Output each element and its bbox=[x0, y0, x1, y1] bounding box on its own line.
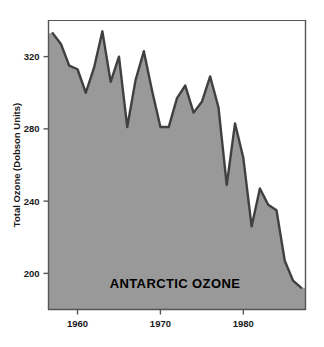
y-axis-title: Total Ozone (Dobson Units) bbox=[11, 103, 22, 227]
y-tick-label: 280 bbox=[24, 123, 40, 134]
x-tick-label: 1970 bbox=[150, 318, 171, 329]
ozone-chart-figure: 200240280320 196019701980 Total Ozone (D… bbox=[0, 0, 324, 347]
y-tick-label: 320 bbox=[24, 51, 40, 62]
x-axis-ticks: 196019701980 bbox=[67, 310, 254, 329]
y-axis-ticks: 200240280320 bbox=[24, 51, 49, 279]
chart-annotation-label: ANTARCTIC OZONE bbox=[110, 276, 241, 291]
y-tick-label: 240 bbox=[24, 196, 40, 207]
chart-canvas: 200240280320 196019701980 Total Ozone (D… bbox=[0, 0, 324, 347]
x-tick-label: 1980 bbox=[233, 318, 254, 329]
x-tick-label: 1960 bbox=[67, 318, 88, 329]
y-tick-label: 200 bbox=[24, 268, 40, 279]
